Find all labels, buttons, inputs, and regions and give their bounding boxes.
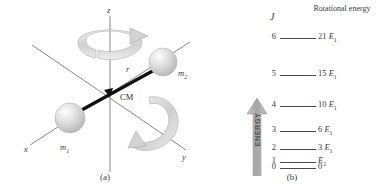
energy-level-value: 21 E1: [318, 32, 337, 45]
caption-a: (a): [85, 172, 125, 182]
energy-level-j-value: 2: [264, 143, 276, 152]
energy-level-line: [280, 162, 316, 163]
figure-rotational-energy: z x y CM r: [0, 0, 384, 194]
bond-length-label: r: [126, 64, 130, 74]
energy-level-j-value: 0: [264, 162, 276, 171]
energy-axis-label: ENERGY: [253, 102, 262, 158]
energy-level-j-value: 3: [264, 125, 276, 134]
energy-level-line: [280, 149, 316, 150]
energy-level-line: [280, 38, 316, 39]
energy-level-value: 6 E1: [318, 125, 333, 138]
axis-y-label: y: [181, 152, 186, 162]
energy-level-line: [280, 75, 316, 76]
rotation-arrow-z-icon: [78, 28, 148, 60]
mass-2-label: m2: [178, 68, 187, 80]
energy-level-value: 15 E1: [318, 69, 337, 82]
mass-1-label: m1: [60, 142, 69, 154]
caption-b: (b): [272, 172, 312, 182]
energy-level-j-value: 4: [264, 100, 276, 109]
energy-level-j-value: 5: [264, 69, 276, 78]
energy-level-line: [280, 168, 316, 169]
column-header-energy: Rotational energy: [304, 4, 380, 13]
energy-level-value: 10 E1: [318, 100, 337, 113]
mass-1-sphere: [55, 103, 85, 133]
rotor-diagram: z x y CM r: [0, 0, 200, 194]
axis-x-label: x: [23, 144, 28, 154]
energy-level-j-value: 6: [264, 32, 276, 41]
energy-level-value: 0: [318, 162, 322, 171]
rotation-arrow-y-icon: [128, 97, 178, 151]
energy-level-line: [280, 106, 316, 107]
panel-b-energy-levels: J Rotational energy ENERGY 621 E1515 E14…: [200, 0, 384, 194]
bond-line: [78, 68, 158, 112]
panel-a-rigid-rotor: z x y CM r: [0, 0, 200, 194]
mass-2-sphere: [149, 48, 177, 76]
energy-level-line: [280, 131, 316, 132]
axis-z-label: z: [106, 5, 111, 15]
center-of-mass-label: CM: [120, 92, 134, 102]
column-header-j: J: [270, 12, 274, 21]
